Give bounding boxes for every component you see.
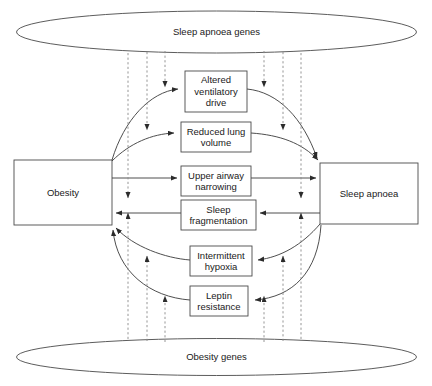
diagram-svg bbox=[0, 0, 432, 386]
box-altered-ventilatory-drive bbox=[185, 71, 247, 112]
dashed-lines-obesity-genes bbox=[128, 213, 301, 342]
box-sleep-fragmentation bbox=[181, 200, 256, 230]
box-reduced-lung-volume bbox=[181, 122, 251, 152]
diagram-canvas: Sleep apnoea genes Obesity genes Obesity… bbox=[0, 0, 432, 386]
arrow-leptin-resistance-to-obesity bbox=[113, 230, 190, 300]
box-leptin-resistance bbox=[190, 286, 248, 316]
box-intermittent-hypoxia bbox=[190, 246, 252, 276]
box-sleep-apnoea bbox=[320, 163, 418, 224]
box-upper-airway-narrowing bbox=[181, 166, 251, 196]
arrow-altered-ventilatory-drive-to-sleep-apnoea bbox=[247, 89, 317, 158]
arrow-sleep-apnoea-to-intermittent-hypoxia bbox=[258, 224, 320, 260]
arrow-sleep-apnoea-to-leptin-resistance bbox=[255, 225, 321, 300]
arrow-obesity-to-altered-ventilatory-drive bbox=[112, 89, 178, 160]
box-obesity bbox=[14, 160, 112, 225]
ellipse-obesity-genes bbox=[17, 339, 417, 376]
arrow-intermittent-hypoxia-to-obesity bbox=[116, 228, 190, 260]
ellipse-sleep-apnoea-genes bbox=[17, 11, 417, 53]
